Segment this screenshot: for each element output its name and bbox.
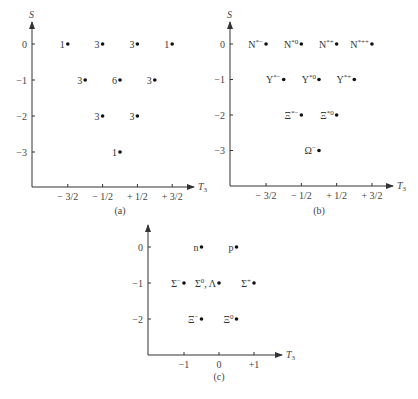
point-label: Σ+ [241, 277, 251, 289]
data-point: p [229, 242, 239, 253]
point-dot [335, 42, 339, 46]
point-label: Y*+ [337, 73, 352, 85]
point-label: 6 [112, 75, 117, 86]
data-point: 3 [95, 39, 105, 50]
point-label: 3 [129, 39, 134, 50]
point-label: n [194, 242, 199, 253]
data-point: N*+ [319, 38, 338, 50]
point-label: 3 [129, 111, 134, 122]
point-label: Ξ− [188, 313, 198, 325]
y-axis-label: S [29, 9, 34, 20]
data-point: Σ0, Λ [195, 277, 221, 289]
data-point: Ξ*0 [320, 109, 338, 121]
x-tick-label: + 1/2 [326, 190, 347, 201]
panel-a: ST3− 3/2− 1/2+ 1/2+ 3/20−1−2−31331363331… [16, 9, 207, 217]
data-point: 3 [129, 111, 139, 122]
x-tick-label: + 1/2 [127, 191, 148, 202]
point-dot [217, 281, 221, 285]
data-point: Ξ*− [284, 109, 303, 121]
data-point: 1 [112, 147, 122, 158]
data-point: Σ+ [241, 277, 256, 289]
point-label: Ξ0 [224, 313, 234, 325]
y-tick-label: −3 [16, 147, 27, 158]
point-dot [370, 42, 374, 46]
data-point: 1 [60, 39, 70, 50]
x-tick-label: − 3/2 [256, 190, 277, 201]
point-label: N*++ [350, 38, 369, 50]
data-point: N*− [248, 38, 267, 50]
data-point: Y*+ [337, 73, 356, 85]
x-tick-label: + 3/2 [361, 190, 382, 201]
point-dot [200, 317, 204, 321]
data-point: Σ− [171, 277, 186, 289]
point-label: Σ− [171, 277, 181, 289]
point-label: 1 [112, 147, 117, 158]
point-label: 1 [60, 39, 65, 50]
point-label: 1 [164, 39, 169, 50]
point-dot [317, 149, 321, 153]
point-dot [282, 78, 286, 82]
point-dot [353, 78, 357, 82]
point-dot [101, 42, 105, 46]
point-dot [264, 42, 268, 46]
data-point: Ξ− [188, 313, 203, 325]
panel-c: T3−10+10−1−2npΣ−Σ0, ΛΣ+Ξ−Ξ0(c) [132, 225, 295, 383]
x-tick-label: −1 [179, 359, 190, 370]
x-tick-label: − 3/2 [57, 191, 78, 202]
data-point: 6 [112, 75, 122, 86]
point-label: N*+ [319, 38, 334, 50]
panel-caption: (b) [313, 205, 325, 217]
weight-diagram-figure: ST3− 3/2− 1/2+ 1/2+ 3/20−1−2−31331363331… [0, 0, 418, 399]
point-dot [136, 42, 140, 46]
y-tick-label: −1 [214, 74, 225, 85]
point-label: Ξ*0 [320, 109, 334, 121]
data-point: Ω− [305, 144, 321, 156]
point-dot [300, 42, 304, 46]
panel-caption: (a) [114, 205, 125, 217]
x-tick-label: − 1/2 [92, 191, 113, 202]
point-label: 3 [95, 111, 100, 122]
x-axis-label: T3 [397, 180, 407, 193]
point-dot [252, 281, 256, 285]
y-tick-label: −3 [214, 145, 225, 156]
data-point: 3 [147, 75, 157, 86]
y-axis-label: S [227, 9, 232, 20]
data-point: Ξ0 [224, 313, 239, 325]
panel-caption: (c) [213, 371, 224, 383]
point-dot [153, 78, 157, 82]
data-point: 3 [95, 111, 105, 122]
x-tick-label: + 3/2 [162, 191, 183, 202]
x-axis-label: T3 [198, 181, 208, 194]
point-label: N*0 [284, 38, 299, 50]
point-dot [182, 281, 186, 285]
data-point: 1 [164, 39, 174, 50]
point-dot [118, 78, 122, 82]
point-label: Ω− [305, 144, 316, 156]
data-point: Y*0 [302, 73, 321, 85]
y-tick-label: −2 [132, 314, 143, 325]
point-label: Ξ*− [284, 109, 298, 121]
data-point: Y*− [266, 73, 285, 85]
point-dot [83, 78, 87, 82]
data-point: N*0 [284, 38, 303, 50]
point-label: p [229, 242, 234, 253]
figure-canvas: ST3− 3/2− 1/2+ 1/2+ 3/20−1−2−31331363331… [0, 0, 418, 399]
point-dot [101, 114, 105, 118]
y-tick-label: −1 [132, 278, 143, 289]
point-dot [235, 245, 239, 249]
y-tick-label: 0 [22, 39, 27, 50]
point-label: 3 [95, 39, 100, 50]
point-dot [136, 114, 140, 118]
x-axis-label: T3 [286, 349, 296, 362]
data-point: N*++ [350, 38, 373, 50]
panel-b: ST3− 3/2− 1/2+ 1/2+ 3/20−1−2−3N*−N*0N*+N… [214, 9, 406, 217]
x-tick-label: 0 [217, 359, 222, 370]
y-tick-label: −2 [214, 110, 225, 121]
point-dot [335, 113, 339, 117]
point-label: 3 [147, 75, 152, 86]
point-label: N*− [248, 38, 263, 50]
y-tick-label: 0 [220, 39, 225, 50]
point-dot [170, 42, 174, 46]
point-dot [317, 78, 321, 82]
y-tick-label: −2 [16, 111, 27, 122]
